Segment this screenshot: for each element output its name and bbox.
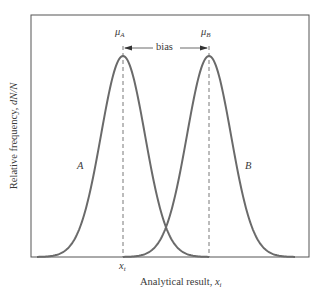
y-axis-label: Relative frequency, dN/N — [8, 83, 19, 189]
mu-b-label: μB — [201, 26, 211, 39]
mu-a-label: μA — [115, 26, 125, 39]
arrowhead-right-icon — [200, 46, 208, 51]
x-axis-label: Analytical result, xi — [140, 276, 222, 289]
bias-label: bias — [156, 41, 173, 52]
curve-a-label: A — [77, 160, 83, 171]
xt-label: xt — [119, 260, 126, 273]
arrowhead-left-icon — [124, 46, 132, 51]
curve-b-label: B — [245, 160, 251, 171]
